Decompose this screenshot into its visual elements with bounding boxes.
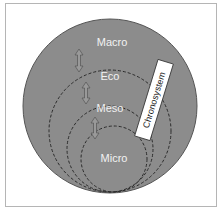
macro-label: Macro bbox=[97, 36, 128, 48]
ecological-systems-diagram: Macro Eco Meso Micro Chronosystem bbox=[0, 0, 221, 211]
eco-label: Eco bbox=[101, 70, 120, 82]
meso-label: Meso bbox=[97, 102, 124, 114]
micro-label: Micro bbox=[101, 152, 128, 164]
